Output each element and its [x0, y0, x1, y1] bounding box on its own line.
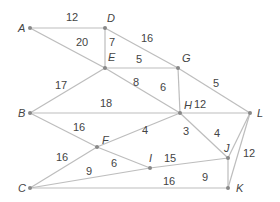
node-label-D: D — [107, 12, 115, 24]
edge-weight-E-H: 8 — [133, 76, 139, 88]
node-B — [28, 111, 32, 115]
edge-F-H — [97, 113, 180, 147]
edge-E-H — [105, 68, 180, 113]
node-J — [226, 156, 230, 160]
edge-A-E — [30, 28, 105, 68]
edge-weight-F-H: 4 — [142, 124, 148, 136]
node-label-C: C — [18, 182, 26, 194]
node-L — [248, 111, 252, 115]
edge-weight-B-F: 16 — [73, 121, 85, 133]
edge-B-E — [30, 68, 105, 113]
edge-weight-C-K: 16 — [163, 175, 175, 187]
node-D — [103, 26, 107, 30]
edges: 122071655861718166164915161234912 — [30, 11, 255, 188]
edge-weight-G-L: 5 — [213, 77, 219, 89]
node-label-H: H — [184, 99, 192, 111]
edge-weight-D-G: 16 — [141, 32, 153, 44]
edge-weight-D-E: 7 — [109, 36, 115, 48]
node-label-I: I — [149, 152, 152, 164]
edge-weight-E-G: 5 — [136, 53, 142, 65]
node-F — [95, 145, 99, 149]
edge-weight-J-K: 9 — [202, 171, 208, 183]
node-label-L: L — [257, 107, 263, 119]
edge-I-J — [150, 158, 228, 168]
node-A — [28, 26, 32, 30]
node-label-A: A — [17, 22, 25, 34]
edge-weight-I-J: 15 — [164, 152, 176, 164]
weighted-graph: 122071655861718166164915161234912 ADEGBH… — [0, 0, 280, 202]
node-K — [226, 186, 230, 190]
node-label-B: B — [18, 107, 25, 119]
edge-weight-A-E: 20 — [76, 36, 88, 48]
node-I — [148, 166, 152, 170]
edge-G-H — [178, 68, 180, 113]
edge-weight-A-D: 12 — [66, 11, 78, 23]
node-label-K: K — [236, 182, 244, 194]
node-label-F: F — [102, 134, 110, 146]
edge-weight-L-K: 12 — [243, 147, 255, 159]
edge-weight-H-L: 12 — [194, 98, 206, 110]
edge-weight-B-E: 17 — [55, 79, 67, 91]
edge-weight-G-H: 6 — [160, 81, 166, 93]
edge-weight-C-I: 9 — [86, 165, 92, 177]
node-label-G: G — [182, 52, 191, 64]
node-label-J: J — [223, 142, 230, 154]
node-C — [28, 186, 32, 190]
edge-weight-B-H: 18 — [100, 97, 112, 109]
edge-weight-H-J: 3 — [183, 125, 189, 137]
node-G — [176, 66, 180, 70]
node-H — [178, 111, 182, 115]
edge-F-I — [97, 147, 150, 168]
edge-weight-J-L: 4 — [214, 127, 220, 139]
node-label-E: E — [108, 51, 116, 63]
node-E — [103, 66, 107, 70]
edge-weight-F-I: 6 — [111, 157, 117, 169]
edge-B-F — [30, 113, 97, 147]
edge-weight-C-F: 16 — [56, 151, 68, 163]
